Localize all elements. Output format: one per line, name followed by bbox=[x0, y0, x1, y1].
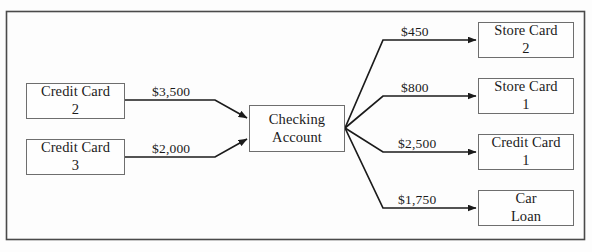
edge-label-car-loan-amount: $1,750 bbox=[398, 193, 436, 207]
node-credit-card-1-line1: Credit Card bbox=[491, 134, 560, 152]
node-credit-card-1-line2: 1 bbox=[522, 152, 529, 170]
node-credit-card-3-line1: Credit Card bbox=[41, 139, 110, 157]
node-store-card-2-line2: 2 bbox=[522, 40, 529, 58]
node-car-loan-line2: Loan bbox=[511, 208, 541, 226]
edge-label-credit-card-1-amount: $2,500 bbox=[398, 137, 436, 151]
node-store-card-1-line2: 1 bbox=[522, 96, 529, 114]
node-store-card-1-line1: Store Card bbox=[494, 78, 557, 96]
node-checking-account-line2: Account bbox=[272, 129, 322, 147]
edge-label-credit-card-3-amount: $2,000 bbox=[152, 142, 190, 156]
edge-label-store-card-1-amount: $800 bbox=[401, 81, 429, 95]
node-car-loan-line1: Car bbox=[515, 190, 536, 208]
node-credit-card-2-line1: Credit Card bbox=[41, 83, 110, 101]
node-credit-card-3-line2: 3 bbox=[72, 157, 79, 175]
node-checking-account-line1: Checking bbox=[269, 111, 325, 129]
node-store-card-1[interactable]: Store Card 1 bbox=[478, 78, 574, 114]
node-credit-card-1[interactable]: Credit Card 1 bbox=[478, 134, 574, 170]
edge-label-credit-card-2-amount: $3,500 bbox=[152, 85, 190, 99]
edge-credit-card-2-to-checking bbox=[125, 100, 247, 118]
node-credit-card-3[interactable]: Credit Card 3 bbox=[26, 139, 125, 175]
node-checking-account[interactable]: Checking Account bbox=[249, 105, 345, 152]
node-car-loan[interactable]: Car Loan bbox=[478, 190, 574, 226]
node-credit-card-2-line2: 2 bbox=[72, 101, 79, 119]
node-store-card-2-line1: Store Card bbox=[494, 22, 557, 40]
diagram-canvas: Credit Card 2 Credit Card 3 Checking Acc… bbox=[0, 0, 592, 252]
edge-checking-to-store-card-1 bbox=[345, 96, 476, 128]
node-store-card-2[interactable]: Store Card 2 bbox=[478, 22, 574, 58]
node-credit-card-2[interactable]: Credit Card 2 bbox=[26, 83, 125, 119]
edge-label-store-card-2-amount: $450 bbox=[401, 25, 429, 39]
